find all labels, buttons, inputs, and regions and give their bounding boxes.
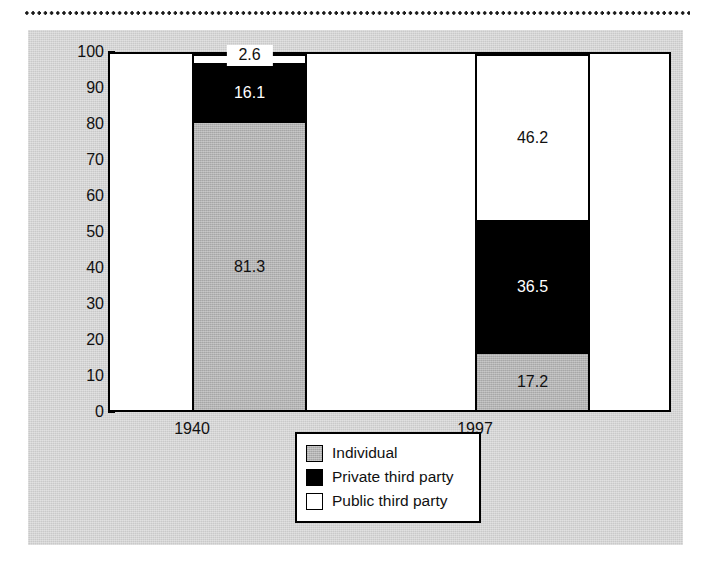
y-axis-tick-label: 100 (77, 44, 108, 60)
stacked-bar-1997[interactable]: 46.2 36.5 17.2 (475, 54, 590, 410)
y-axis-tick-label: 20 (86, 332, 108, 348)
bar-value-label: 81.3 (234, 259, 265, 275)
legend-swatch-icon (306, 493, 323, 510)
bar-value-label: 17.2 (517, 374, 548, 390)
legend-item-private-third-party[interactable]: Private third party (306, 465, 470, 489)
legend-item-individual[interactable]: Individual (306, 441, 470, 465)
legend-item-public-third-party[interactable]: Public third party (306, 489, 470, 513)
bar-value-label: 2.6 (226, 45, 272, 66)
bar-value-label: 36.5 (517, 279, 548, 295)
y-axis-tick-label: 90 (86, 80, 108, 96)
stacked-bar-1940[interactable]: 2.6 16.1 81.3 (192, 54, 307, 410)
y-axis-tick-label: 60 (86, 188, 108, 204)
legend-item-label: Public third party (332, 493, 447, 509)
legend-item-label: Individual (332, 445, 398, 461)
legend-item-label: Private third party (332, 469, 453, 485)
y-axis-tick-label: 30 (86, 296, 108, 312)
legend-swatch-icon (306, 469, 323, 486)
y-axis-tick-label: 40 (86, 260, 108, 276)
bar-segment-individual-1997[interactable]: 17.2 (477, 352, 588, 410)
figure-panel: Percentage 100 90 80 70 60 50 40 (28, 30, 683, 545)
bar-segment-individual-1940[interactable]: 81.3 (194, 121, 305, 410)
bar-segment-public-1997[interactable]: 46.2 (477, 54, 588, 220)
y-axis-tick-label: 0 (95, 404, 108, 420)
bar-segment-private-1997[interactable]: 36.5 (477, 220, 588, 351)
legend: Individual Private third party Public th… (295, 432, 481, 523)
y-axis-tick-label: 80 (86, 116, 108, 132)
bar-segment-public-1940[interactable]: 2.6 (194, 54, 305, 63)
plot-area: 2.6 16.1 81.3 46.2 36.5 17.2 (108, 52, 671, 412)
bar-value-label: 46.2 (517, 130, 548, 146)
bar-segment-private-1940[interactable]: 16.1 (194, 63, 305, 121)
y-axis-tick-label: 10 (86, 368, 108, 384)
y-axis-tick-label: 70 (86, 152, 108, 168)
dotted-separator-rule (25, 11, 690, 15)
legend-swatch-icon (306, 445, 323, 462)
bar-value-label: 16.1 (234, 85, 265, 101)
x-axis-label-1940: 1940 (117, 420, 267, 438)
y-axis-tick-label: 50 (86, 224, 108, 240)
y-axis-tick-group: 100 90 80 70 60 50 40 30 (44, 52, 108, 412)
